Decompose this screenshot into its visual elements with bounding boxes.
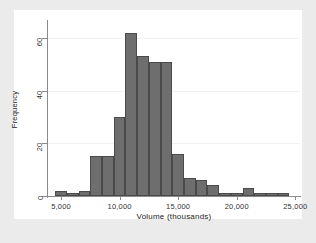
x-axis-tick bbox=[120, 196, 121, 200]
histogram-bar bbox=[196, 180, 208, 196]
y-axis-tick-label: 40 bbox=[36, 90, 45, 99]
x-axis-label: Volume (thousands) bbox=[47, 212, 301, 221]
x-axis-tick bbox=[295, 196, 296, 200]
y-axis-tick-label: 0 bbox=[36, 196, 45, 200]
histogram-bar bbox=[161, 62, 173, 196]
x-axis-tick bbox=[237, 196, 238, 200]
histogram-bar bbox=[102, 156, 114, 196]
histogram-bar bbox=[149, 62, 161, 196]
x-axis-tick bbox=[61, 196, 62, 200]
x-axis-tick bbox=[178, 196, 179, 200]
histogram-bar bbox=[243, 188, 255, 196]
y-axis-tick-label: 20 bbox=[36, 143, 45, 152]
y-axis-label: Frequency bbox=[10, 80, 19, 140]
histogram-bar bbox=[207, 185, 219, 196]
y-axis-line bbox=[47, 20, 48, 198]
x-axis-line bbox=[47, 196, 301, 197]
histogram-bar bbox=[125, 33, 137, 196]
histogram-bars bbox=[47, 22, 300, 196]
plot-area bbox=[47, 22, 300, 196]
x-axis-tick-label: 20,000 bbox=[225, 202, 249, 211]
histogram-bar bbox=[90, 156, 102, 196]
x-axis-tick-label: 15,000 bbox=[166, 202, 190, 211]
histogram-bar bbox=[184, 178, 196, 196]
histogram-bar bbox=[172, 154, 184, 196]
y-axis-tick-label: 60 bbox=[36, 37, 45, 46]
x-axis-tick-label: 25,000 bbox=[283, 202, 307, 211]
histogram-figure: 0204060 5,00010,00015,00020,00025,000 Fr… bbox=[0, 0, 316, 243]
histogram-bar bbox=[114, 117, 126, 196]
x-axis-tick-label: 10,000 bbox=[108, 202, 132, 211]
histogram-bar bbox=[137, 56, 149, 196]
x-axis-tick-label: 5,000 bbox=[51, 202, 71, 211]
